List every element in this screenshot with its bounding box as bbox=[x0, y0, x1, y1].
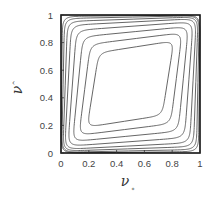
x-tick-label: 0.2 bbox=[82, 158, 95, 169]
x-tick-label: 0.8 bbox=[166, 158, 179, 169]
contour-level-5 bbox=[69, 23, 192, 145]
y-axis-label: ν ^ bbox=[9, 80, 25, 94]
y-tick-label: 0.8 bbox=[40, 37, 53, 48]
contour-lines bbox=[61, 15, 200, 153]
y-tick-label: 0.6 bbox=[40, 65, 53, 76]
contour-level-7 bbox=[80, 34, 180, 134]
contour-level-6 bbox=[74, 28, 187, 141]
y-tick-labels: 00.20.40.60.81 bbox=[40, 10, 53, 159]
y-tick-label: 0.2 bbox=[40, 120, 53, 131]
contour-level-8 bbox=[89, 43, 173, 126]
y-tick-label: 1 bbox=[48, 10, 53, 21]
x-tick-label: 1 bbox=[197, 158, 202, 169]
x-tick-label: 0 bbox=[58, 158, 63, 169]
x-tick-label: 0.4 bbox=[110, 158, 123, 169]
x-axis-label-main: ν bbox=[121, 173, 130, 189]
x-tick-label: 0.6 bbox=[138, 158, 151, 169]
contour-level-3 bbox=[64, 17, 198, 150]
y-tick-label: 0.4 bbox=[40, 92, 53, 103]
x-tick-labels: 00.20.40.60.81 bbox=[58, 158, 202, 169]
contour-chart: 00.20.40.60.81 00.20.40.60.81 ν * ν ^ bbox=[0, 0, 212, 201]
x-axis-label-sub: * bbox=[132, 186, 135, 193]
contour-level-2 bbox=[62, 16, 199, 152]
x-axis-label: ν * bbox=[121, 173, 135, 193]
y-axis-label-main: ν bbox=[9, 85, 25, 94]
y-axis-label-sub: ^ bbox=[11, 80, 18, 85]
y-tick-label: 0 bbox=[48, 148, 53, 159]
